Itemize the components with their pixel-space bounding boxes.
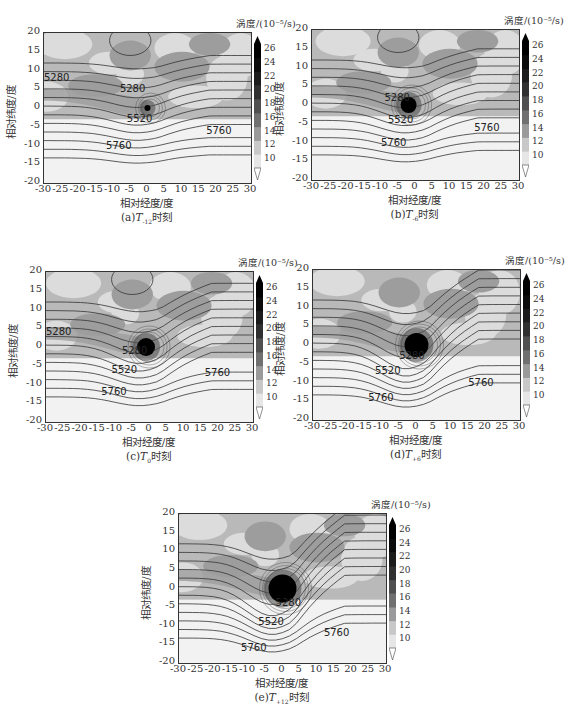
vorticity-plot: 5280552057605760 xyxy=(312,269,521,421)
colorbar-tick: 22 xyxy=(532,68,543,78)
x-tick-label: -20 xyxy=(338,420,354,431)
x-tick-label: 10 xyxy=(175,183,188,194)
contour-label: 5760 xyxy=(106,140,131,151)
colorbar-tick: 20 xyxy=(533,321,544,331)
x-tick-label: -10 xyxy=(372,180,388,191)
colorbar-tick: 24 xyxy=(532,54,543,64)
x-tick-label: 25 xyxy=(361,663,374,674)
x-tick-label: -15 xyxy=(87,183,103,194)
y-tick-label: -15 xyxy=(286,153,308,164)
caption-subscript: -12 xyxy=(142,218,152,225)
x-tick-label: 20 xyxy=(211,422,224,433)
contour-label: 5280 xyxy=(46,326,71,337)
x-tick-label: -25 xyxy=(54,422,70,433)
contour-label: 5520 xyxy=(388,114,413,125)
caption-subscript: +6 xyxy=(412,455,421,462)
colorbar-tick: 12 xyxy=(399,620,410,630)
y-tick-label: 0 xyxy=(18,100,40,111)
y-tick-label: 5 xyxy=(287,318,309,329)
x-tick-label: 15 xyxy=(194,422,207,433)
y-tick-label: 10 xyxy=(20,302,42,313)
x-tick-label: -15 xyxy=(89,422,105,433)
y-tick-label: -5 xyxy=(287,356,309,367)
colorbar-tick: 24 xyxy=(399,538,410,548)
x-tick-label: -20 xyxy=(71,422,87,433)
y-tick-label: 5 xyxy=(18,81,40,92)
x-tick-label: 25 xyxy=(494,180,507,191)
colorbar-tick: 18 xyxy=(533,335,544,345)
y-tick-label: 0 xyxy=(286,97,308,108)
panel-caption: (d)T+6时刻 xyxy=(390,446,441,462)
colorbar-tick: 26 xyxy=(532,40,543,50)
x-axis-label: 相对经度/度 xyxy=(120,195,174,210)
caption-symbol: T xyxy=(406,208,413,220)
y-axis-label: 相对纬度/度 xyxy=(138,566,153,620)
x-tick-label: 20 xyxy=(344,663,357,674)
caption-prefix: (c) xyxy=(126,450,140,462)
contour-label: 5520 xyxy=(375,365,400,376)
x-tick-label: 0 xyxy=(412,420,418,431)
x-tick-label: 25 xyxy=(495,420,508,431)
x-tick-label: -10 xyxy=(104,183,120,194)
x-tick-label: -30 xyxy=(303,180,319,191)
contour-label: 5280 xyxy=(120,83,145,94)
x-tick-label: -10 xyxy=(239,663,255,674)
colorbar-tick: 10 xyxy=(266,392,277,402)
y-tick-label: -5 xyxy=(153,599,175,610)
contour-label: 5280 xyxy=(384,92,409,103)
colorbar-tick: 16 xyxy=(532,109,543,119)
y-tick-label: -10 xyxy=(20,377,42,388)
x-tick-label: 30 xyxy=(244,183,257,194)
x-tick-label: 30 xyxy=(246,422,259,433)
x-tick-label: 20 xyxy=(477,180,490,191)
x-tick-label: 30 xyxy=(513,420,526,431)
colorbar-tick: 10 xyxy=(533,390,544,400)
x-tick-label: -20 xyxy=(337,180,353,191)
y-tick-label: 10 xyxy=(18,63,40,74)
x-tick-label: 5 xyxy=(429,180,435,191)
y-tick-label: 20 xyxy=(287,262,309,273)
caption-prefix: (d) xyxy=(390,448,405,460)
colorbar-title: 涡度/(10⁻⁵/s) xyxy=(371,497,431,511)
colorbar-tick: 26 xyxy=(399,524,410,534)
colorbar-tick: 24 xyxy=(266,296,277,306)
y-tick-label: -15 xyxy=(287,393,309,404)
x-tick-label: -30 xyxy=(35,183,51,194)
y-tick-label: 5 xyxy=(286,78,308,89)
x-tick-label: -5 xyxy=(259,663,269,674)
y-tick-label: 5 xyxy=(20,320,42,331)
caption-suffix: 时刻 xyxy=(289,691,309,703)
contour-label: 5760 xyxy=(368,392,393,403)
colorbar-tick: 18 xyxy=(399,579,410,589)
vorticity-plot: 5280552057605760 xyxy=(311,29,520,181)
y-axis-label: 相对纬度/度 xyxy=(271,82,286,136)
vorticity-plot: 52805280552057605760 xyxy=(45,271,254,423)
y-tick-label: -10 xyxy=(153,618,175,629)
y-tick-label: -10 xyxy=(18,138,40,149)
caption-suffix: 时刻 xyxy=(418,208,438,220)
x-tick-label: 5 xyxy=(296,663,302,674)
colorbar-tick: 14 xyxy=(399,606,410,616)
x-tick-label: -30 xyxy=(170,663,186,674)
contour-label: 5760 xyxy=(205,367,230,378)
contour-label: 5760 xyxy=(474,122,499,133)
x-tick-label: -10 xyxy=(373,420,389,431)
x-tick-label: -15 xyxy=(356,420,372,431)
x-tick-label: 30 xyxy=(512,180,525,191)
x-tick-label: 25 xyxy=(228,422,241,433)
x-tick-label: 5 xyxy=(430,420,436,431)
colorbar-tick: 14 xyxy=(532,123,543,133)
contour-label: 5760 xyxy=(381,137,406,148)
x-tick-label: 10 xyxy=(444,420,457,431)
x-tick-label: 0 xyxy=(143,183,149,194)
x-tick-label: 5 xyxy=(161,183,167,194)
y-axis-label: 相对纬度/度 xyxy=(272,322,287,376)
x-tick-label: 10 xyxy=(310,663,323,674)
colorbar-tick: 12 xyxy=(264,139,275,149)
contour-label: 5760 xyxy=(101,386,126,397)
contour-label: 5520 xyxy=(112,364,137,375)
contour-label: 5280 xyxy=(44,72,69,83)
x-tick-label: 15 xyxy=(192,183,205,194)
x-tick-label: 30 xyxy=(379,663,392,674)
colorbar-tick: 26 xyxy=(266,282,277,292)
